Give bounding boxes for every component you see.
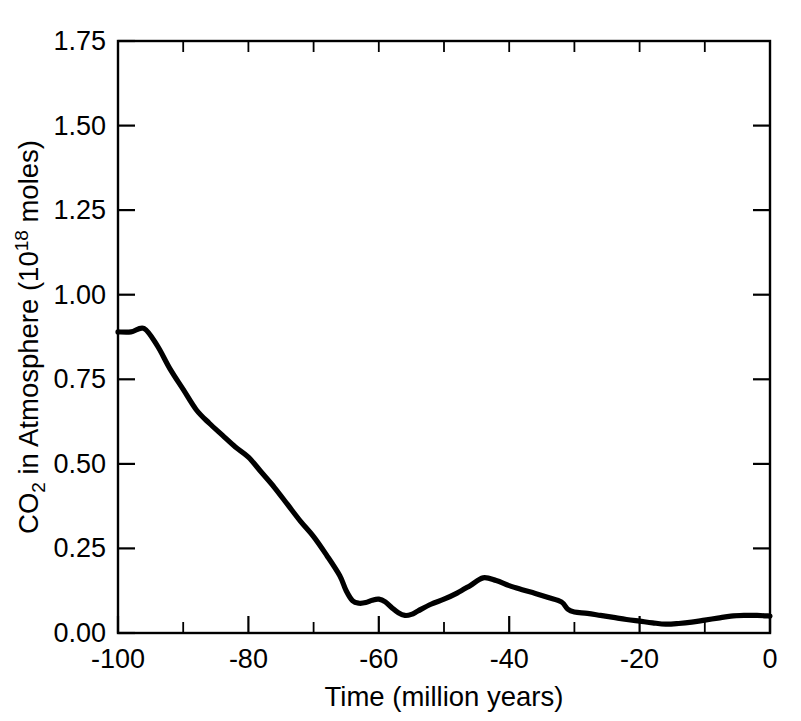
figure-canvas: 0.00 0.25 0.50 0.75 1.00 1.25 1.50 1.75 … — [0, 0, 801, 721]
y-ticklabel: 1.50 — [53, 111, 106, 141]
x-axis-ticklabels: -100 -80 -60 -40 -20 0 — [91, 644, 778, 674]
y-axis-title-suffix: moles) — [13, 140, 44, 230]
y-axis-title-prefix: CO — [13, 493, 44, 534]
y-axis-title-subscript: 2 — [28, 482, 49, 493]
y-ticklabel: 1.00 — [53, 280, 106, 310]
x-ticklabel: -100 — [91, 644, 145, 674]
y-ticklabel: 1.75 — [53, 26, 106, 56]
y-axis-title-middle: in Atmosphere (10 — [13, 251, 44, 482]
plot-frame — [118, 41, 770, 633]
y-ticklabel: 0.75 — [53, 364, 106, 394]
x-ticklabel: -20 — [620, 644, 659, 674]
co2-time-line-chart: 0.00 0.25 0.50 0.75 1.00 1.25 1.50 1.75 … — [0, 0, 801, 721]
x-ticklabel: -60 — [359, 644, 398, 674]
y-axis-title: CO2 in Atmosphere (1018 moles) — [11, 140, 49, 534]
x-ticklabel: -80 — [229, 644, 268, 674]
y-axis-ticks — [118, 41, 135, 633]
x-ticklabel: 0 — [762, 644, 777, 674]
y-axis-title-superscript: 18 — [11, 230, 32, 251]
y-ticklabel: 1.25 — [53, 195, 106, 225]
x-ticklabel: -40 — [490, 644, 529, 674]
top-axis-ticks — [183, 41, 705, 52]
x-axis-ticks-minor — [183, 622, 705, 633]
y-ticklabel: 0.50 — [53, 449, 106, 479]
right-axis-ticks — [753, 126, 770, 549]
x-axis-title: Time (million years) — [325, 681, 564, 712]
co2-data-line — [118, 328, 770, 624]
y-ticklabel: 0.25 — [53, 533, 106, 563]
y-axis-ticklabels: 0.00 0.25 0.50 0.75 1.00 1.25 1.50 1.75 — [53, 26, 106, 648]
